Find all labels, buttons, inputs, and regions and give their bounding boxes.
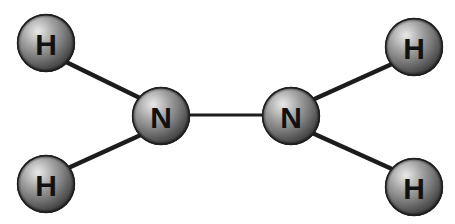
- atom-h-top-right: H: [385, 18, 443, 76]
- atom-h-bottom-left: H: [17, 155, 75, 213]
- atom-h-top-left: H: [17, 14, 75, 72]
- bond-n-right-h-bottom-right: [310, 132, 392, 169]
- atom-n-left: N: [132, 87, 190, 145]
- bond-n-right-h-top-right: [310, 64, 392, 101]
- molecule-svg: HHNNHH: [0, 0, 455, 224]
- atom-h-bottom-right: H: [385, 158, 443, 216]
- bond-h-top-left-n-left: [64, 61, 144, 100]
- atom-n-right: N: [262, 87, 320, 145]
- molecule-diagram: HHNNHH: [0, 0, 455, 224]
- bond-h-bottom-left-n-left: [66, 134, 143, 169]
- bond-layer: [64, 61, 392, 169]
